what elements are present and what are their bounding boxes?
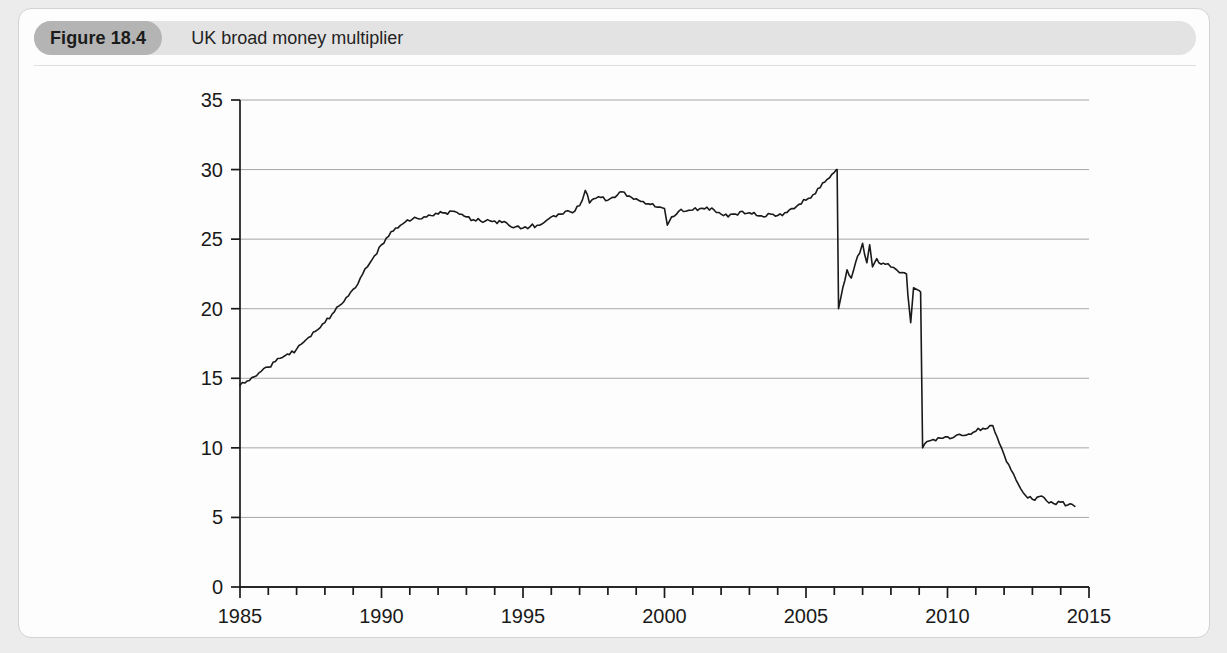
x-tick-label: 1995	[501, 605, 546, 627]
figure-card: Figure 18.4 UK broad money multiplier 05…	[18, 8, 1210, 638]
x-axis-major-ticks	[240, 587, 1089, 598]
x-tick-label: 1985	[218, 605, 263, 627]
y-axis-labels: 05101520253035	[201, 89, 223, 598]
x-axis-labels: 1985199019952000200520102015	[218, 605, 1112, 627]
figure-number-label: Figure 18.4	[50, 28, 146, 49]
x-tick-label: 2005	[784, 605, 829, 627]
y-tick-label: 10	[201, 437, 223, 459]
data-series-line	[240, 170, 1075, 507]
line-chart: 05101520253035 1985199019952000200520102…	[19, 69, 1211, 634]
header-divider	[34, 65, 1196, 66]
figure-number-badge: Figure 18.4	[34, 21, 162, 55]
figure-header: Figure 18.4 UK broad money multiplier	[34, 21, 1196, 55]
figure-title: UK broad money multiplier	[191, 28, 403, 49]
gridlines	[240, 100, 1089, 587]
y-tick-label: 5	[212, 506, 223, 528]
chart-plot-area: 05101520253035 1985199019952000200520102…	[19, 69, 1211, 634]
x-tick-label: 2010	[925, 605, 970, 627]
y-tick-label: 35	[201, 89, 223, 111]
x-tick-label: 2015	[1067, 605, 1112, 627]
y-axis-ticks	[231, 100, 240, 587]
y-tick-label: 15	[201, 367, 223, 389]
y-tick-label: 0	[212, 576, 223, 598]
x-tick-label: 2000	[642, 605, 687, 627]
y-tick-label: 30	[201, 159, 223, 181]
y-tick-label: 20	[201, 298, 223, 320]
y-tick-label: 25	[201, 228, 223, 250]
x-tick-label: 1990	[359, 605, 404, 627]
